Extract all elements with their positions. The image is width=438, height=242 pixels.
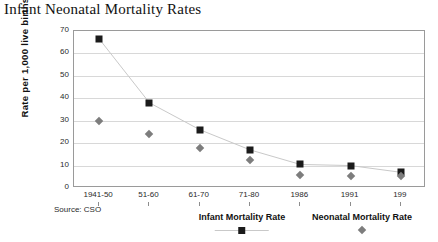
x-tick-mark xyxy=(400,202,401,206)
legend-symbol xyxy=(312,225,412,235)
legend-label: Infant Mortality Rate xyxy=(199,212,286,222)
x-tick-label: 1986 xyxy=(290,190,308,199)
y-axis-title: Rate per 1,000 live births xyxy=(19,0,30,128)
y-tick-label: 50 xyxy=(47,71,69,79)
page-title: Infant Neonatal Mortality Rates xyxy=(4,1,201,18)
x-axis-ticks: 1941-5051-6061-7071-8019861991199 xyxy=(73,190,425,202)
y-tick-label: 20 xyxy=(47,138,69,146)
data-point-marker xyxy=(297,161,304,168)
legend-label: Neonatal Mortality Rate xyxy=(312,212,412,222)
y-tick-label: 10 xyxy=(47,161,69,169)
data-point-marker xyxy=(247,146,254,153)
legend-symbol xyxy=(199,225,286,235)
x-tick-label: 71-80 xyxy=(239,190,259,199)
y-tick-label: 40 xyxy=(47,93,69,101)
x-tick-mark xyxy=(350,202,351,206)
x-tick-label: 199 xyxy=(393,190,406,199)
data-point-marker xyxy=(96,35,103,42)
x-tick-label: 51-60 xyxy=(138,190,158,199)
chart-legend: Infant Mortality RateNeonatal Mortality … xyxy=(180,212,430,238)
legend-entry: Neonatal Mortality Rate xyxy=(312,212,412,235)
source-note: Source: CSO xyxy=(54,205,101,214)
x-tick-label: 61-70 xyxy=(188,190,208,199)
legend-diamond-marker xyxy=(358,226,366,234)
y-tick-label: 60 xyxy=(47,48,69,56)
data-point-marker xyxy=(196,126,203,133)
legend-square-marker xyxy=(238,227,245,234)
legend-entry: Infant Mortality Rate xyxy=(199,212,286,235)
x-tick-label: 1941-50 xyxy=(83,190,112,199)
y-axis-ticks: 010203040506070 xyxy=(45,30,69,187)
x-tick-label: 1991 xyxy=(341,190,359,199)
y-tick-label: 30 xyxy=(47,116,69,124)
y-tick-label: 70 xyxy=(47,26,69,34)
data-point-marker xyxy=(347,162,354,169)
x-tick-mark xyxy=(199,202,200,206)
plot-area xyxy=(73,30,425,187)
x-tick-mark xyxy=(299,202,300,206)
x-tick-mark xyxy=(148,202,149,206)
series-lines xyxy=(74,31,426,188)
y-tick-label: 0 xyxy=(47,183,69,191)
data-point-marker xyxy=(146,99,153,106)
x-tick-mark xyxy=(249,202,250,206)
